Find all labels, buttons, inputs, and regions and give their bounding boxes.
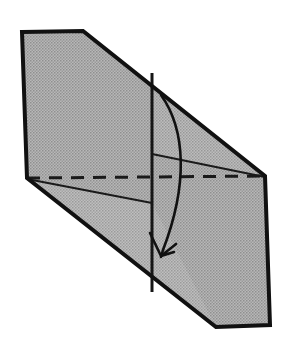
figure-canvas: Paper folding diagram Shaded prism-like … [0,0,292,349]
folding-diagram-svg [0,0,292,349]
